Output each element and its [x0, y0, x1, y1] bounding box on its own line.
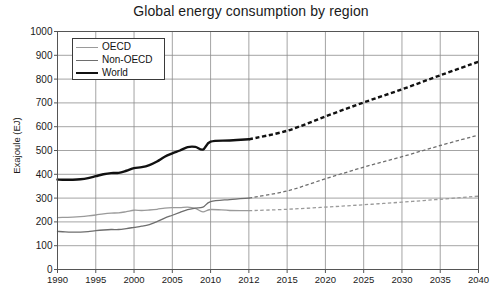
chart-container: Global energy consumption by region Exaj…: [0, 0, 502, 296]
series-line-oecd-historical: [58, 207, 249, 217]
y-axis-ticks: 01002003004005006007008009001000: [30, 26, 57, 275]
svg-text:1000: 1000: [30, 26, 53, 37]
legend: OECD Non-OECD World: [72, 38, 165, 80]
svg-text:100: 100: [36, 240, 53, 251]
svg-text:1990: 1990: [47, 274, 68, 285]
data-series-group: [58, 62, 479, 232]
legend-item-oecd: OECD: [76, 41, 161, 54]
svg-text:700: 700: [36, 97, 53, 108]
series-line-non-oecd-historical: [58, 198, 249, 232]
svg-text:2010: 2010: [200, 274, 221, 285]
legend-label-non-oecd: Non-OECD: [102, 55, 153, 65]
legend-swatch-world: [76, 72, 98, 74]
svg-text:2000: 2000: [123, 274, 144, 285]
svg-text:2005: 2005: [162, 274, 183, 285]
svg-text:2030: 2030: [391, 274, 412, 285]
series-line-world-historical: [58, 139, 249, 180]
legend-swatch-non-oecd: [76, 60, 98, 61]
legend-label-oecd: OECD: [102, 42, 131, 52]
svg-text:900: 900: [36, 50, 53, 61]
svg-text:400: 400: [36, 169, 53, 180]
legend-item-world: World: [76, 66, 161, 79]
svg-text:600: 600: [36, 121, 53, 132]
svg-text:1995: 1995: [85, 274, 106, 285]
svg-text:800: 800: [36, 74, 53, 85]
svg-text:2012: 2012: [238, 274, 259, 285]
legend-swatch-oecd: [76, 47, 98, 48]
legend-label-world: World: [102, 68, 128, 78]
svg-text:2020: 2020: [315, 274, 336, 285]
svg-text:2015: 2015: [277, 274, 298, 285]
svg-text:200: 200: [36, 216, 53, 227]
svg-text:2040: 2040: [468, 274, 489, 285]
x-axis-ticks: 1990199520002005201020122015202020252030…: [47, 270, 489, 285]
svg-text:500: 500: [36, 145, 53, 156]
svg-text:2025: 2025: [353, 274, 374, 285]
svg-text:2035: 2035: [430, 274, 451, 285]
legend-item-non-oecd: Non-OECD: [76, 54, 161, 67]
svg-text:300: 300: [36, 193, 53, 204]
